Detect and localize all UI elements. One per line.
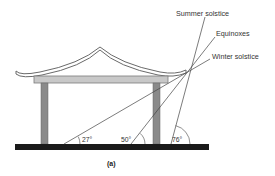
left-column <box>41 83 48 144</box>
angle-label-summer: 76° <box>172 136 183 143</box>
angle-label-winter: 27° <box>82 136 93 143</box>
label-equinoxes: Equinoxes <box>216 29 250 38</box>
beam <box>34 76 168 83</box>
arc-50 <box>140 133 145 144</box>
ground <box>15 144 209 150</box>
right-column <box>153 83 160 144</box>
roof <box>16 47 186 77</box>
label-summer-solstice: Summer solstice <box>176 9 229 18</box>
summer-solstice-ray <box>171 17 205 144</box>
angle-label-equinox: 50° <box>121 136 132 143</box>
label-winter-solstice: Winter solstice <box>212 52 259 61</box>
figure-caption: (a) <box>107 160 116 168</box>
solar-angle-diagram: 27° 50° 76° Summer solstice Equinoxes Wi… <box>0 0 275 176</box>
diagram-canvas: 27° 50° 76° Summer solstice Equinoxes Wi… <box>0 0 275 176</box>
arc-27 <box>78 137 80 144</box>
equinox-ray <box>131 37 215 144</box>
